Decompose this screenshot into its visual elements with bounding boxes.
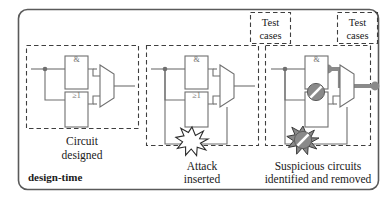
- panel-1-caption-line-2: designed: [62, 149, 103, 162]
- test-cases-middle-line-2: cases: [259, 30, 281, 41]
- diagram-canvas: .wire { stroke: #6f6f6f; stroke-width: 1…: [0, 0, 390, 207]
- panel-3-and-gate-label: &: [313, 55, 320, 64]
- panel-2-or-gate-label: ≥1: [192, 91, 200, 100]
- no-entry-icon-or-gate: [307, 83, 324, 100]
- test-cases-right-line-2: cases: [346, 30, 368, 41]
- no-entry-icon-trojan: [294, 131, 311, 148]
- panel-1-or-gate-label: ≥1: [72, 91, 80, 100]
- figure-root: .wire { stroke: #6f6f6f; stroke-width: 1…: [0, 0, 390, 207]
- panel-2-and-gate-label: &: [193, 55, 200, 64]
- test-cases-middle-line-1: Test: [262, 17, 279, 28]
- stage-label: design-time: [28, 171, 83, 183]
- panel-2-caption-line-2: inserted: [184, 173, 221, 185]
- panel-1-and-gate-label: &: [73, 55, 80, 64]
- panel-1-caption-line-1: Circuit: [66, 135, 99, 147]
- panel-3-caption-line-1: Suspicious circuits: [275, 160, 362, 173]
- panel-2-caption-line-1: Attack: [187, 160, 218, 172]
- panel-3-caption-line-2: identified and removed: [265, 173, 372, 185]
- test-cases-right-line-1: Test: [349, 17, 366, 28]
